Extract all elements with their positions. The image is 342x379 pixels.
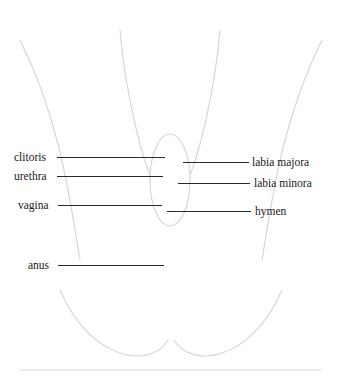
label-clitoris: clitoris [14, 151, 46, 163]
leader-labia-majora [183, 162, 249, 163]
label-hymen: hymen [255, 205, 286, 217]
anatomy-diagram: clitoris urethra vagina anus labia major… [0, 0, 342, 379]
leader-labia-minora [178, 183, 250, 184]
label-labia-majora: labia majora [252, 156, 309, 168]
label-anus: anus [28, 259, 49, 271]
leader-urethra [57, 176, 163, 177]
label-labia-minora: labia minora [254, 177, 312, 189]
illustration-sketch [0, 0, 342, 379]
leader-anus [58, 265, 164, 266]
leader-clitoris [57, 157, 165, 158]
leader-vagina [58, 205, 162, 206]
label-vagina: vagina [18, 199, 49, 211]
leader-hymen [167, 211, 251, 212]
label-urethra: urethra [14, 170, 47, 182]
